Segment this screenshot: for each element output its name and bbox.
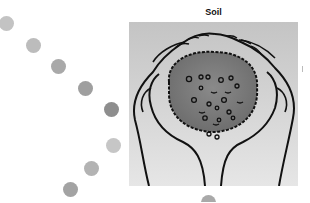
edge-mark [302, 66, 303, 72]
decorative-dot [201, 195, 216, 203]
decorative-dot [84, 161, 99, 176]
image-title: Soil [129, 7, 298, 17]
soil-in-hands-icon [129, 22, 298, 186]
decorative-dot [0, 16, 14, 31]
decorative-dot [63, 182, 78, 197]
decorative-dot [78, 81, 93, 96]
decorative-dot [26, 38, 41, 53]
decorative-dot [106, 138, 121, 153]
soil-illustration [129, 22, 298, 186]
decorative-dot [51, 59, 66, 74]
decorative-dot [104, 102, 119, 117]
